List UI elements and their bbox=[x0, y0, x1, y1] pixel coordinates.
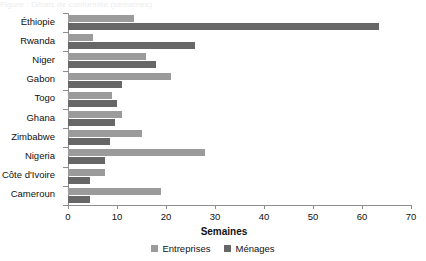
x-axis-tick bbox=[264, 205, 265, 209]
legend-swatch-menages bbox=[224, 245, 231, 252]
bar-menages bbox=[68, 23, 379, 30]
y-axis-label-3: Gabon bbox=[26, 74, 55, 84]
x-axis-tick-label: 30 bbox=[200, 211, 230, 222]
bar-menages bbox=[68, 157, 105, 164]
bar-group bbox=[68, 130, 411, 147]
bar-entreprises bbox=[68, 73, 171, 80]
bar-chart: Figure : Délais de conformité (semaines)… bbox=[0, 0, 426, 261]
y-axis-label-7: Nigeria bbox=[25, 151, 55, 161]
legend-label: Ménages bbox=[235, 243, 274, 254]
bar-entreprises bbox=[68, 149, 205, 156]
x-axis-tick bbox=[215, 205, 216, 209]
bar-group bbox=[68, 111, 411, 128]
bar-entreprises bbox=[68, 53, 146, 60]
y-axis-label-9: Cameroun bbox=[11, 189, 55, 199]
x-axis-tick bbox=[68, 205, 69, 209]
bar-menages bbox=[68, 119, 115, 126]
bar-entreprises bbox=[68, 111, 122, 118]
bar-entreprises bbox=[68, 188, 161, 195]
x-axis-line bbox=[68, 205, 411, 206]
cropped-title-remnant: Figure : Délais de conformité (semaines) bbox=[0, 0, 426, 9]
y-axis-label-5: Ghana bbox=[26, 113, 55, 123]
legend-item-menages[interactable]: Ménages bbox=[224, 243, 274, 254]
x-axis-tick-label: 20 bbox=[151, 211, 181, 222]
legend-label: Entreprises bbox=[162, 243, 210, 254]
x-axis-tick-label: 50 bbox=[298, 211, 328, 222]
bar-entreprises bbox=[68, 169, 105, 176]
bar-group bbox=[68, 73, 411, 90]
x-axis-tick-label: 40 bbox=[249, 211, 279, 222]
x-axis-tick bbox=[166, 205, 167, 209]
x-axis-tick bbox=[117, 205, 118, 209]
legend-item-entreprises[interactable]: Entreprises bbox=[151, 243, 210, 254]
x-axis-tick-label: 60 bbox=[347, 211, 377, 222]
bar-entreprises bbox=[68, 130, 142, 137]
bar-group bbox=[68, 92, 411, 109]
bar-group bbox=[68, 34, 411, 51]
x-axis-tick-label: 70 bbox=[396, 211, 426, 222]
x-axis-tick-label: 0 bbox=[53, 211, 83, 222]
chart-legend: EntreprisesMénages bbox=[0, 243, 426, 254]
bar-menages bbox=[68, 177, 90, 184]
bar-entreprises bbox=[68, 92, 112, 99]
y-axis-label-0: Éthiopie bbox=[21, 17, 55, 27]
y-axis-label-6: Zimbabwe bbox=[11, 132, 55, 142]
x-axis-tick bbox=[313, 205, 314, 209]
bar-group bbox=[68, 53, 411, 70]
bar-menages bbox=[68, 138, 110, 145]
bar-menages bbox=[68, 61, 156, 68]
bar-group bbox=[68, 15, 411, 32]
bar-menages bbox=[68, 42, 195, 49]
y-axis-label-8: Côte d'Ivoire bbox=[2, 170, 55, 180]
bar-group bbox=[68, 169, 411, 186]
x-axis-tick bbox=[362, 205, 363, 209]
y-axis-label-1: Rwanda bbox=[20, 36, 55, 46]
x-axis-tick-label: 10 bbox=[102, 211, 132, 222]
y-axis-label-2: Niger bbox=[32, 55, 55, 65]
bar-group bbox=[68, 149, 411, 166]
bar-entreprises bbox=[68, 15, 134, 22]
bar-group bbox=[68, 188, 411, 205]
plot-area bbox=[68, 13, 411, 205]
y-axis-category-labels: ÉthiopieRwandaNigerGabonTogoGhanaZimbabw… bbox=[0, 13, 63, 205]
legend-swatch-entreprises bbox=[151, 245, 158, 252]
x-axis-title: Semaines bbox=[0, 226, 426, 237]
bar-menages bbox=[68, 100, 117, 107]
y-axis-label-4: Togo bbox=[34, 93, 55, 103]
x-axis-tick bbox=[411, 205, 412, 209]
bar-entreprises bbox=[68, 34, 93, 41]
bar-menages bbox=[68, 196, 90, 203]
bar-menages bbox=[68, 81, 122, 88]
x-axis-title-text: Semaines bbox=[201, 226, 248, 237]
